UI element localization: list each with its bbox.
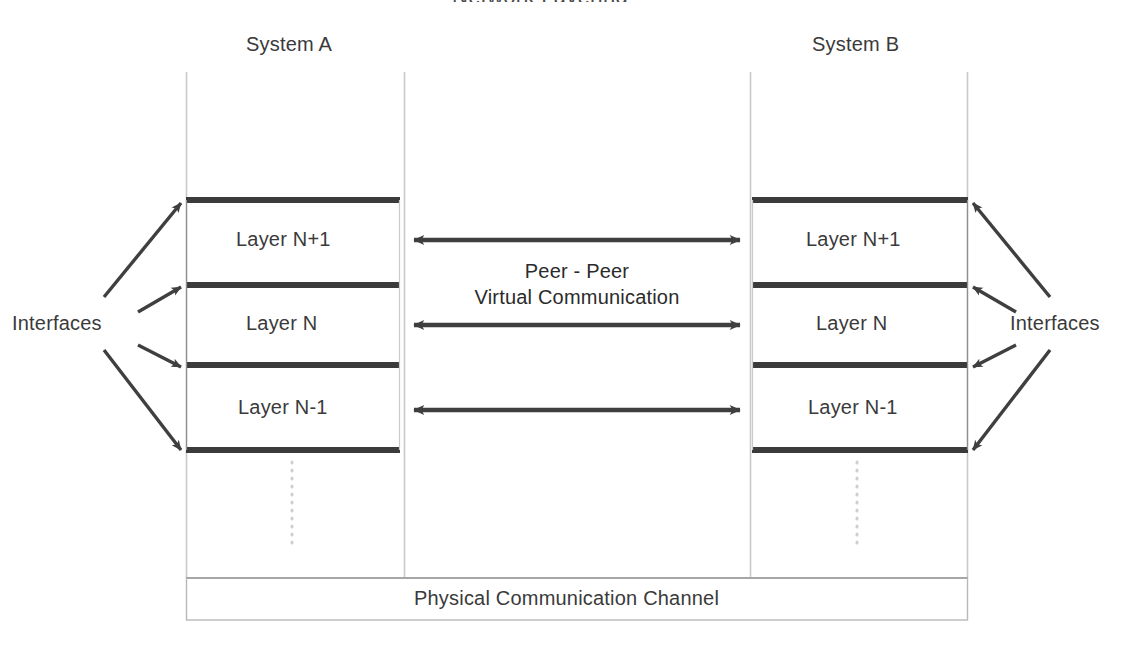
physical-communication-channel-label: Physical Communication Channel xyxy=(414,587,719,610)
interface-arrow-right-4 xyxy=(973,350,1050,450)
interface-arrow-right-3 xyxy=(973,345,1016,367)
peer-peer-line-2: Virtual Communication xyxy=(397,284,757,310)
layer-continuation-dots xyxy=(292,462,857,550)
network-layering-diagram: Network Layering xyxy=(0,0,1142,646)
system-b-label: System B xyxy=(812,33,899,56)
interfaces-left-label: Interfaces xyxy=(12,312,102,335)
system-a-layer-n-minus-1-label: Layer N-1 xyxy=(238,396,328,419)
system-b-layer-n-plus-1-label: Layer N+1 xyxy=(806,228,901,251)
interface-arrow-left-2 xyxy=(138,287,181,312)
system-b-layer-n-label: Layer N xyxy=(816,312,887,335)
interface-arrow-left-3 xyxy=(138,345,181,367)
peer-peer-line-1: Peer - Peer xyxy=(397,258,757,284)
interface-arrow-left-4 xyxy=(104,350,181,450)
interface-arrow-right-2 xyxy=(973,287,1016,312)
system-a-layer-n-plus-1-label: Layer N+1 xyxy=(236,228,331,251)
interfaces-right-label: Interfaces xyxy=(1010,312,1100,335)
interface-arrow-left-1 xyxy=(104,203,181,297)
interfaces-left-arrows xyxy=(104,203,181,450)
system-b-layer-n-minus-1-label: Layer N-1 xyxy=(808,396,898,419)
diagram-graphics xyxy=(0,0,1142,646)
peer-peer-caption: Peer - Peer Virtual Communication xyxy=(397,258,757,310)
system-a-layer-n-label: Layer N xyxy=(246,312,317,335)
system-a-label: System A xyxy=(246,33,332,56)
interface-arrow-right-1 xyxy=(973,203,1050,297)
